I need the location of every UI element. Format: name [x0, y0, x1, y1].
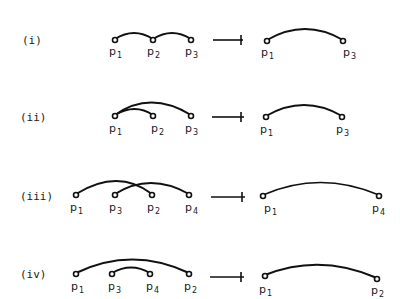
node-p3: [340, 115, 345, 120]
node-p1: [264, 115, 269, 120]
node-p4: [148, 272, 153, 277]
point-label: p3: [108, 280, 121, 295]
arc-p1-p2: [76, 260, 189, 274]
node-p3: [110, 272, 115, 277]
row-label: (iv): [20, 268, 47, 281]
row-iii: (iii) p1 p3 p2 p4 p1 p4: [20, 181, 385, 217]
node-p3: [113, 193, 118, 198]
node-p1: [113, 114, 118, 119]
diagram-canvas: (i) p1 p2 p3 p1 p3 (ii): [0, 0, 400, 299]
left-graph: p1 p2 p3: [109, 33, 198, 60]
point-label: p3: [109, 201, 122, 216]
point-label: p4: [372, 202, 385, 217]
point-label: p4: [146, 280, 159, 295]
node-p1: [265, 39, 270, 44]
point-label: p1: [71, 280, 84, 295]
row-label: (iii): [20, 190, 53, 203]
node-p2: [150, 193, 155, 198]
arc-p1-p2: [115, 33, 153, 39]
point-label: p3: [343, 46, 356, 61]
right-graph: p1 p2: [259, 265, 384, 299]
node-p1: [74, 193, 79, 198]
arc-p1-p3: [266, 105, 342, 116]
right-graph: p1 p4: [261, 183, 386, 218]
arc-p1-p2: [265, 265, 377, 278]
point-label: p3: [185, 122, 198, 137]
point-label: p1: [109, 45, 122, 60]
row-label: (ii): [20, 111, 47, 124]
point-label: p2: [147, 201, 160, 216]
arc-p3-p4: [112, 268, 150, 274]
point-label: p1: [109, 122, 122, 137]
arc-p2-p3: [153, 33, 191, 39]
point-label: p3: [336, 123, 349, 138]
point-label: p1: [264, 202, 277, 217]
point-label: p1: [260, 123, 273, 138]
row-ii: (ii) p1 p2 p3 p1 p3: [20, 103, 349, 139]
node-p3: [341, 39, 346, 44]
node-p4: [187, 193, 192, 198]
node-p4: [377, 194, 382, 199]
point-label: p4: [185, 201, 198, 216]
arrow-icon: [211, 192, 245, 202]
left-graph: p1 p2 p3: [109, 103, 198, 138]
row-i: (i) p1 p2 p3 p1 p3: [22, 29, 356, 61]
point-label: p1: [259, 283, 272, 298]
arc-p1-p3: [267, 29, 343, 40]
point-label: p3: [185, 45, 198, 60]
row-label: (i): [22, 34, 42, 47]
node-p2: [375, 277, 380, 282]
node-p2: [151, 114, 156, 119]
arrow-icon: [210, 272, 244, 282]
right-graph: p1 p3: [260, 105, 349, 138]
arrow-icon: [212, 112, 244, 122]
arc-p1-p4: [263, 183, 379, 196]
left-graph: p1 p3 p4 p2: [71, 260, 197, 296]
node-p1: [113, 38, 118, 43]
node-p1: [261, 194, 266, 199]
point-label: p1: [70, 201, 83, 216]
node-p1: [74, 272, 79, 277]
arrow-icon: [213, 35, 243, 45]
node-p3: [189, 38, 194, 43]
node-p2: [151, 38, 156, 43]
row-iv: (iv) p1 p3 p4 p2 p1 p2: [20, 260, 384, 299]
node-p3: [189, 114, 194, 119]
right-graph: p1 p3: [261, 29, 356, 61]
point-label: p1: [261, 46, 274, 61]
point-label: p2: [371, 284, 384, 299]
point-label: p2: [147, 45, 160, 60]
point-label: p2: [151, 122, 164, 137]
node-p2: [187, 272, 192, 277]
left-graph: p1 p3 p2 p4: [70, 181, 198, 216]
node-p1: [263, 274, 268, 279]
point-label: p2: [184, 280, 197, 295]
